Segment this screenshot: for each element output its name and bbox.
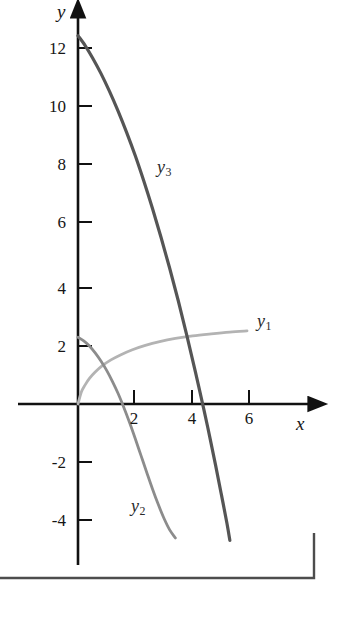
curves-group xyxy=(78,36,247,541)
ytick-label-6: 6 xyxy=(28,214,66,231)
ytick-label-12: 12 xyxy=(28,40,66,57)
figure-root: 12 10 8 6 4 2 -2 -4 2 4 6 y x y3 y1 y2 xyxy=(0,0,340,633)
ytick-label-4: 4 xyxy=(28,280,66,297)
coordinate-plot xyxy=(0,0,340,633)
curve-label-y1-sub: 1 xyxy=(266,319,272,333)
y-tick-marks xyxy=(78,48,92,520)
y-axis-label: y xyxy=(57,2,65,21)
xtick-label-2: 2 xyxy=(120,410,148,427)
curve-label-y1: y1 xyxy=(257,312,271,333)
figure-border xyxy=(0,533,314,578)
curve-label-y3-base: y xyxy=(157,157,165,177)
curve-label-y2-base: y xyxy=(131,496,139,516)
curve-label-y2-sub: 2 xyxy=(140,504,146,518)
curve-y3 xyxy=(78,36,230,541)
ytick-label-minus-4: -4 xyxy=(22,512,66,529)
curve-label-y2: y2 xyxy=(131,497,145,518)
curve-y2 xyxy=(78,337,175,538)
curve-label-y3: y3 xyxy=(157,158,171,179)
x-tick-marks xyxy=(134,390,249,404)
curve-label-y1-base: y xyxy=(257,311,265,331)
xtick-label-4: 4 xyxy=(178,410,206,427)
ytick-label-2: 2 xyxy=(28,338,66,355)
ytick-label-8: 8 xyxy=(28,156,66,173)
xtick-label-6: 6 xyxy=(235,410,263,427)
ytick-label-10: 10 xyxy=(28,98,66,115)
ytick-label-minus-2: -2 xyxy=(22,454,66,471)
x-axis-label: x xyxy=(296,414,304,433)
curve-label-y3-sub: 3 xyxy=(166,165,172,179)
